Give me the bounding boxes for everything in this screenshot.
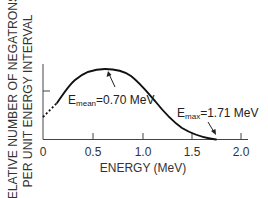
chart-canvas: 0 0.5 1.0 1.5 2.0 ENERGY (MeV) Emean=0.7… <box>0 0 268 198</box>
mean-arrow <box>107 71 116 87</box>
max-arrow <box>208 122 216 135</box>
x-tick-label-0.5: 0.5 <box>85 145 102 159</box>
x-tick-label-1.0: 1.0 <box>135 145 152 159</box>
max-energy-label: Emax=1.71 MeV <box>177 106 259 121</box>
x-tick-label-0: 0 <box>40 145 47 159</box>
x-tick-label-2.0: 2.0 <box>233 145 250 159</box>
x-tick-label-1.5: 1.5 <box>184 145 201 159</box>
x-axis-label: ENERGY (MeV) <box>100 161 186 175</box>
mean-energy-label: Emean=0.70 MeV <box>68 93 154 108</box>
x-ticks <box>93 133 241 140</box>
curve-dotted-segment <box>43 103 57 117</box>
